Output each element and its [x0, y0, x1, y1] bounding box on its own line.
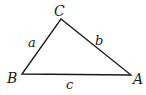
vertex-label-c: C	[54, 3, 65, 19]
triangle-abc	[22, 19, 131, 75]
side-label-b: b	[95, 33, 103, 48]
vertex-label-a: A	[131, 71, 143, 87]
vertex-label-b: B	[6, 70, 17, 86]
side-label-a: a	[28, 35, 36, 50]
side-label-c: c	[66, 77, 74, 92]
triangle-diagram: C B A a b c	[0, 0, 146, 95]
